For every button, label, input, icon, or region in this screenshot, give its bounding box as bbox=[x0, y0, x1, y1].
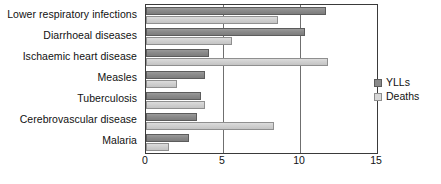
category-label-1: Diarrhoeal diseases bbox=[0, 30, 137, 41]
bar-deaths-2 bbox=[146, 58, 328, 66]
bar-ylls-3 bbox=[146, 71, 205, 79]
category-label-6: Malaria bbox=[0, 135, 137, 146]
legend-item-ylls: YLLs bbox=[374, 76, 440, 89]
bar-ylls-4 bbox=[146, 92, 201, 100]
category-label-3: Measles bbox=[0, 72, 137, 83]
bar-ylls-6 bbox=[146, 134, 189, 142]
category-label-4: Tuberculosis bbox=[0, 93, 137, 104]
category-label-0: Lower respiratory infections bbox=[0, 9, 137, 20]
legend-label-ylls: YLLs bbox=[386, 77, 410, 88]
bar-deaths-3 bbox=[146, 80, 177, 88]
bar-ylls-1 bbox=[146, 28, 305, 36]
x-tick-label-15: 15 bbox=[370, 154, 382, 166]
plot-area bbox=[145, 4, 378, 154]
gridline-x-10 bbox=[300, 5, 301, 153]
bar-ylls-5 bbox=[146, 113, 197, 121]
x-tick-label-10: 10 bbox=[293, 154, 305, 166]
x-axis-tick-labels: 051015 bbox=[0, 154, 441, 170]
bar-deaths-4 bbox=[146, 101, 205, 109]
category-label-2: Ischaemic heart disease bbox=[0, 51, 137, 62]
gridline-x-5 bbox=[223, 5, 224, 153]
legend-swatch-ylls-icon bbox=[374, 79, 382, 87]
legend-swatch-deaths-icon bbox=[374, 93, 382, 101]
category-axis-labels: Lower respiratory infectionsDiarrhoeal d… bbox=[0, 4, 141, 152]
bar-deaths-1 bbox=[146, 37, 232, 45]
legend-item-deaths: Deaths bbox=[374, 90, 440, 103]
x-tick-label-0: 0 bbox=[142, 154, 148, 166]
bar-ylls-0 bbox=[146, 7, 326, 15]
bar-deaths-6 bbox=[146, 143, 169, 151]
legend-label-deaths: Deaths bbox=[386, 91, 419, 102]
chart-legend: YLLs Deaths bbox=[374, 76, 440, 104]
bar-deaths-5 bbox=[146, 122, 274, 130]
bar-deaths-0 bbox=[146, 16, 278, 24]
plot-inner bbox=[146, 5, 377, 153]
category-label-5: Cerebrovascular disease bbox=[0, 114, 137, 125]
x-tick-label-5: 5 bbox=[219, 154, 225, 166]
bar-ylls-2 bbox=[146, 49, 209, 57]
bar-chart: Lower respiratory infectionsDiarrhoeal d… bbox=[0, 0, 441, 184]
